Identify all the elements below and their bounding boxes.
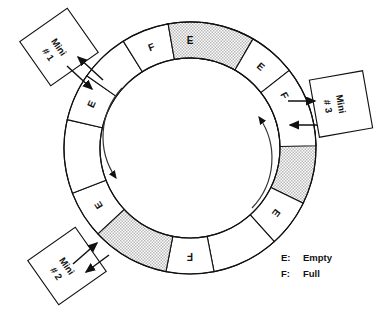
ring-inner-edge [100, 58, 280, 238]
legend-key-empty: E: [281, 252, 291, 263]
ring-diagram-canvas: EFEFEEFE Mini# 1Mini# 2Mini# 3 E: Empty … [0, 0, 382, 317]
ring-network-diagram: EFEFEEFE Mini# 1Mini# 2Mini# 3 E: Empty … [0, 0, 382, 317]
legend-value-full: Full [303, 268, 320, 279]
legend: E: Empty F: Full [281, 252, 333, 279]
ring-segments-group [64, 22, 316, 274]
mini-station[interactable]: Mini# 3 [309, 71, 372, 137]
mini-station[interactable]: Mini# 1 [20, 8, 98, 86]
legend-key-full: F: [281, 268, 290, 279]
ring-segment-label: F [187, 251, 193, 262]
rotation-direction-arrows [103, 88, 272, 208]
legend-value-empty: Empty [303, 252, 333, 263]
ring-segment [64, 120, 106, 193]
ring-segment-label: E [187, 35, 194, 46]
mini-station-number: # 3 [322, 99, 335, 114]
